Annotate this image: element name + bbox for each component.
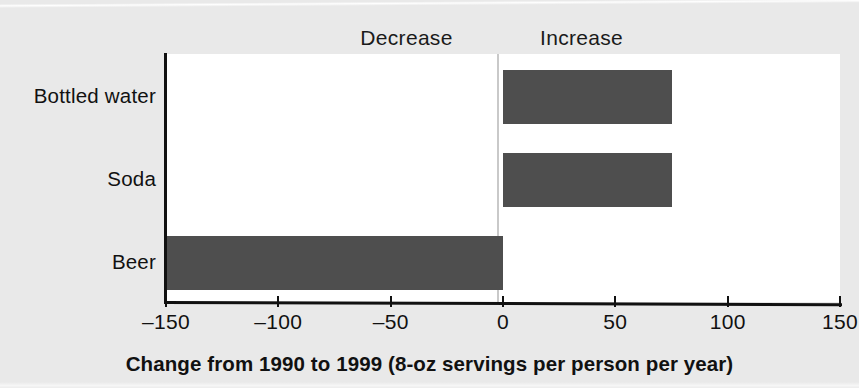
x-tick — [727, 296, 729, 307]
bar-beer — [166, 236, 503, 290]
bar-soda — [503, 153, 672, 207]
y-axis-line — [164, 53, 167, 303]
category-label-row: Bottled water — [0, 84, 156, 108]
x-tick — [165, 296, 167, 307]
x-axis-title: Change from 1990 to 1999 (8-oz servings … — [0, 352, 859, 376]
x-tick-label: 50 — [603, 310, 627, 334]
x-tick — [614, 296, 616, 307]
x-tick-label: –150 — [142, 310, 190, 334]
x-tick — [502, 296, 504, 307]
x-tick — [277, 296, 279, 307]
x-tick — [390, 296, 392, 307]
annotation-decrease: Decrease — [360, 26, 452, 50]
x-tick-label: 150 — [822, 310, 858, 334]
chart-figure: Decrease Increase Bottled waterSodaBeer … — [0, 0, 859, 388]
annotation-increase: Increase — [540, 26, 623, 50]
x-tick-label: –100 — [254, 310, 302, 334]
x-tick-label: 100 — [710, 310, 746, 334]
category-label-row: Soda — [0, 167, 156, 191]
category-label-soda: Soda — [107, 167, 156, 191]
x-tick-label: –50 — [373, 310, 409, 334]
scan-artifact-top — [0, 0, 859, 8]
category-label-beer: Beer — [112, 250, 156, 274]
category-label-bottled-water: Bottled water — [34, 84, 156, 108]
x-tick — [839, 296, 841, 307]
bar-bottled-water — [503, 70, 672, 124]
category-label-row: Beer — [0, 250, 156, 274]
scan-artifact-bottom — [0, 382, 859, 388]
x-tick-label: 0 — [497, 310, 509, 334]
